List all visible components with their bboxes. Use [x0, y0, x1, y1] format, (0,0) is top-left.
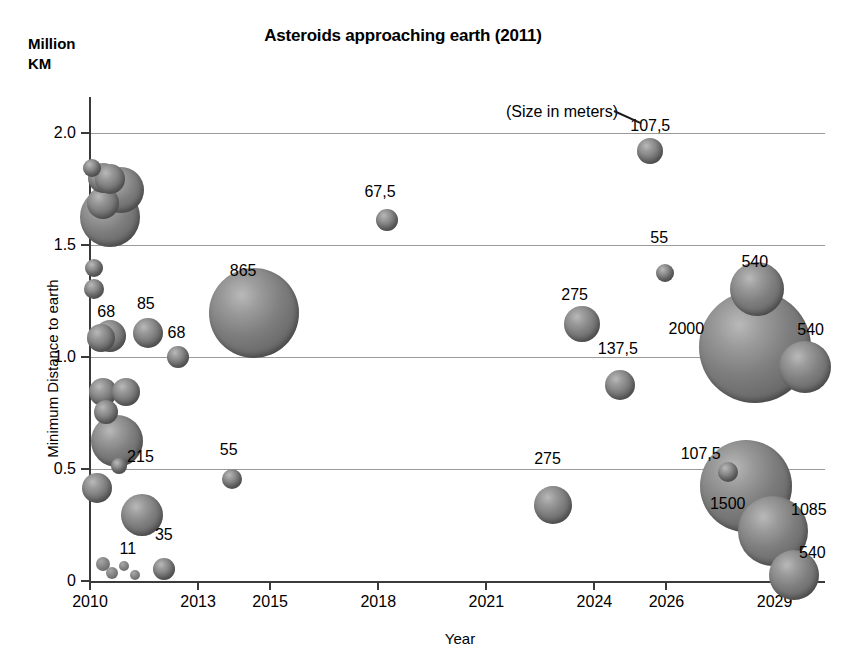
- x-axis-tick-label: 2018: [360, 593, 396, 611]
- data-bubble[interactable]: [87, 324, 115, 352]
- x-axis-tick-label: 2024: [577, 593, 613, 611]
- data-bubble[interactable]: [153, 558, 175, 580]
- bubble-size-label: 275: [561, 286, 588, 304]
- y-axis-tick-label: 1.5: [54, 236, 76, 254]
- data-bubble[interactable]: [718, 462, 738, 482]
- x-axis-tick: [89, 581, 91, 590]
- data-bubble[interactable]: [84, 279, 104, 299]
- bubble-size-label: 540: [797, 321, 824, 339]
- data-bubble[interactable]: [83, 159, 101, 177]
- data-bubble[interactable]: [119, 561, 129, 571]
- y-axis-tick-label: 0.5: [54, 460, 76, 478]
- bubble-size-label: 85: [137, 295, 155, 313]
- y-axis-tick-label: 2.0: [54, 124, 76, 142]
- data-bubble[interactable]: [637, 138, 663, 164]
- data-bubble[interactable]: [534, 486, 572, 524]
- page-title: Asteroids approaching earth (2011): [0, 26, 846, 46]
- bubble-size-label: 35: [155, 526, 173, 544]
- plot-area: 00.51.01.52.0201020132015201820212024202…: [90, 97, 825, 581]
- x-axis-tick: [593, 581, 595, 590]
- x-axis-tick: [197, 581, 199, 590]
- bubble-size-label: 865: [230, 262, 257, 280]
- y-axis-tick: [81, 468, 91, 470]
- bubble-size-label: 275: [534, 450, 561, 468]
- x-axis-tick-label: 2021: [469, 593, 505, 611]
- bubble-size-label: 55: [220, 441, 238, 459]
- data-bubble[interactable]: [112, 378, 140, 406]
- bubble-size-label: 540: [741, 253, 768, 271]
- data-bubble[interactable]: [209, 268, 299, 358]
- y-unit-label: Million KM: [28, 34, 76, 74]
- data-bubble[interactable]: [106, 567, 118, 579]
- y-axis-tick-label: 0: [67, 572, 76, 590]
- bubble-size-label: 215: [127, 448, 154, 466]
- y-axis-label: Minimum Distance to earth: [44, 169, 61, 569]
- data-bubble[interactable]: [605, 370, 635, 400]
- x-axis-tick-label: 2026: [649, 593, 685, 611]
- data-bubble[interactable]: [656, 264, 674, 282]
- y-axis-tick-label: 1.0: [54, 348, 76, 366]
- data-bubble[interactable]: [130, 570, 140, 580]
- x-axis-tick: [377, 581, 379, 590]
- bubble-size-label: 68: [97, 303, 115, 321]
- x-axis-line: [89, 581, 825, 583]
- data-bubble[interactable]: [167, 346, 189, 368]
- bubble-size-label: 1085: [791, 501, 827, 519]
- x-axis-tick: [665, 581, 667, 590]
- x-axis-tick-label: 2010: [72, 593, 108, 611]
- bubble-size-label: 11: [120, 540, 137, 558]
- y-axis-tick: [81, 244, 91, 246]
- chart-root: Asteroids approaching earth (2011) Milli…: [0, 0, 846, 668]
- data-bubble[interactable]: [779, 341, 831, 393]
- bubble-size-label: 67,5: [364, 183, 395, 201]
- y-axis-tick: [81, 356, 91, 358]
- bubble-size-label: 68: [168, 324, 186, 342]
- bubble-size-label: 55: [650, 229, 668, 247]
- y-axis-tick: [81, 132, 91, 134]
- data-bubble[interactable]: [222, 469, 242, 489]
- gridline: [90, 133, 825, 134]
- x-axis-label: Year: [90, 630, 830, 647]
- x-axis-tick-label: 2015: [252, 593, 288, 611]
- bubble-size-label: 137,5: [598, 340, 638, 358]
- data-bubble[interactable]: [111, 458, 127, 474]
- gridline: [90, 245, 825, 246]
- bubble-size-label: 107,5: [681, 445, 721, 463]
- data-bubble[interactable]: [94, 400, 118, 424]
- bubble-size-label: 540: [799, 544, 826, 562]
- bubble-size-label: 2000: [668, 320, 704, 338]
- data-bubble[interactable]: [85, 259, 103, 277]
- x-axis-tick: [269, 581, 271, 590]
- size-annotation: (Size in meters): [506, 103, 618, 121]
- data-bubble[interactable]: [133, 318, 163, 348]
- bubble-size-label: 1500: [710, 495, 746, 513]
- chart-title-text: Asteroids approaching earth (2011): [264, 26, 542, 45]
- x-axis-tick-label: 2013: [180, 593, 216, 611]
- data-bubble[interactable]: [376, 209, 398, 231]
- data-bubble[interactable]: [82, 473, 112, 503]
- x-axis-tick: [485, 581, 487, 590]
- data-bubble[interactable]: [564, 306, 600, 342]
